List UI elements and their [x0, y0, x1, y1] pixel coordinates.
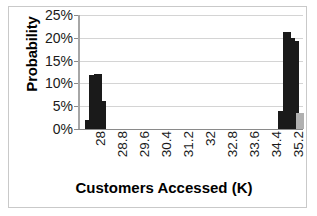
- x-axis-tick-labels: 2828.829.630.431.23232.833.634.435.2: [78, 131, 303, 175]
- y-axis-tick-labels: 25%20%15%10%5%0%: [31, 15, 73, 129]
- y-tick-mark: [74, 106, 78, 107]
- y-tick-mark: [74, 129, 78, 130]
- bars-layer: [78, 15, 303, 129]
- bar: [98, 101, 106, 129]
- y-tick-label: 10%: [31, 76, 73, 90]
- y-tick-mark: [74, 83, 78, 84]
- y-tick-label: 15%: [31, 54, 73, 68]
- y-tick-mark: [74, 38, 78, 39]
- x-tick-label: 35.2: [292, 131, 306, 157]
- bar: [296, 113, 304, 129]
- x-tick-label: 34.4: [270, 131, 284, 157]
- plot-area: [78, 15, 303, 129]
- y-tick-label: 0%: [31, 122, 73, 136]
- y-tick-mark: [74, 61, 78, 62]
- y-tick-label: 25%: [31, 8, 73, 22]
- x-tick-label: 28.8: [116, 131, 130, 157]
- x-tick-label: 32.8: [226, 131, 240, 157]
- chart-frame: Probability 25%20%15%10%5%0% 2828.829.63…: [8, 6, 307, 208]
- x-tick-label: 33.6: [248, 131, 262, 157]
- x-tick-label: 29.6: [138, 131, 152, 157]
- x-tick-label: 31.2: [182, 131, 196, 157]
- y-tick-label: 20%: [31, 31, 73, 45]
- x-tick-label: 32: [204, 131, 218, 146]
- gridline-0: [78, 129, 303, 130]
- y-tick-label: 5%: [31, 99, 73, 113]
- y-tick-mark: [74, 15, 78, 16]
- x-tick-label: 30.4: [160, 131, 174, 157]
- x-tick-label: 28: [94, 131, 108, 146]
- x-axis-title: Customers Accessed (K): [29, 179, 299, 196]
